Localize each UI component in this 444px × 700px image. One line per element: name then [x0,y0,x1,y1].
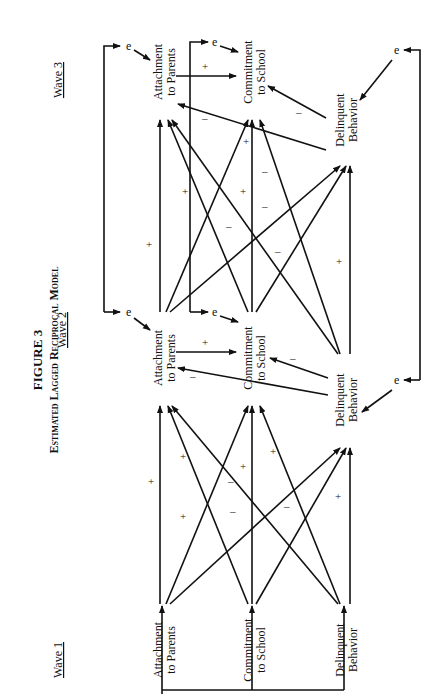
svg-text:to School: to School [254,335,268,381]
svg-text:–: – [227,475,234,487]
svg-text:to Parents: to Parents [164,334,178,382]
svg-text:–: – [261,165,268,177]
svg-text:–: – [274,245,281,257]
svg-text:+: + [202,60,208,72]
error-term-w2-att: e [126,305,131,319]
svg-text:Delinquent: Delinquent [333,373,347,427]
svg-text:+: + [336,255,342,267]
figure-title: Estimated Lagged Reciprocal Model [47,266,61,453]
error-term-w2-del: e [394,373,399,387]
svg-text:+: + [182,185,188,197]
svg-text:to Parents: to Parents [164,626,178,674]
edges-wave2-to-wave3 [160,120,350,354]
svg-text:+: + [270,445,276,457]
svg-text:Delinquent: Delinquent [333,93,347,147]
svg-text:Attachment: Attachment [151,43,165,100]
svg-text:+: + [180,450,186,462]
svg-text:–: – [295,106,302,118]
signs-wave2-to-wave3: + + + + – – – – + [146,135,342,267]
svg-text:+: + [335,490,341,502]
svg-text:+: + [180,510,186,522]
node-w1-commitment: Commitment to School [241,618,268,682]
error-term-w3-del: e [394,43,399,57]
signs-wave1-to-wave2: + + + + – – – + + [148,445,341,522]
node-w3-commitment: Commitment to School [241,40,268,104]
svg-text:–: – [189,370,196,382]
svg-text:+: + [146,238,152,250]
figure-title-block: FIGURE 3 Estimated Lagged Reciprocal Mod… [30,266,61,453]
wave-1-label: Wave 1 [51,642,65,678]
wave-3-label: Wave 3 [51,62,65,98]
svg-text:–: – [289,352,296,364]
node-w2-attachment: Attachment to Parents [151,329,178,386]
edges-wave1-to-wave2 [160,406,350,604]
svg-text:Commitment: Commitment [241,40,255,104]
svg-text:–: – [225,220,232,232]
svg-text:Behavior: Behavior [346,628,360,672]
svg-text:Attachment: Attachment [151,621,165,678]
svg-text:+: + [240,185,246,197]
svg-text:–: – [201,112,208,124]
reciprocal-model-diagram: FIGURE 3 Estimated Lagged Reciprocal Mod… [0,0,444,700]
svg-text:to School: to School [254,49,268,95]
svg-text:Behavior: Behavior [346,378,360,422]
svg-text:to Parents: to Parents [164,48,178,96]
figure-number: FIGURE 3 [30,329,45,390]
svg-text:Commitment: Commitment [241,618,255,682]
svg-text:to School: to School [254,627,268,673]
svg-text:+: + [240,460,246,472]
node-w1-attachment: Attachment to Parents [151,621,178,678]
node-w3-delinquent: Delinquent Behavior [333,93,360,147]
wave-2-label: Wave 2 [55,312,69,348]
svg-text:+: + [148,475,154,487]
svg-text:Delinquent: Delinquent [333,623,347,677]
node-w2-delinquent: Delinquent Behavior [333,373,360,427]
svg-text:–: – [283,500,290,512]
error-term-w3-com: e [212,35,217,49]
svg-text:Behavior: Behavior [346,98,360,142]
svg-text:–: – [261,200,268,212]
svg-text:–: – [229,505,236,517]
svg-text:Attachment: Attachment [151,329,165,386]
error-term-w2-com: e [212,305,217,319]
svg-text:+: + [202,336,208,348]
svg-text:+: + [243,135,249,147]
error-term-w3-att: e [126,39,131,53]
node-w3-attachment: Attachment to Parents [151,43,178,100]
node-w1-delinquent: Delinquent Behavior [333,623,360,677]
